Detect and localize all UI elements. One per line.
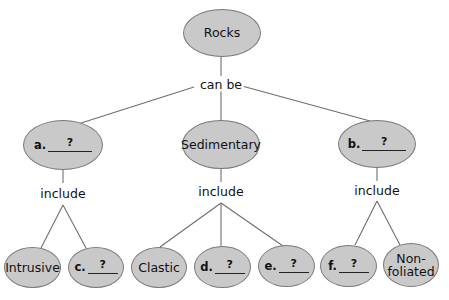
blank-b-answer-line: ? [362, 138, 406, 151]
blank-e-question-mark: ? [279, 258, 309, 270]
blank-f-letter: f. [328, 260, 337, 272]
node-clastic: Clastic [131, 247, 187, 288]
blank-f-answer-line: ? [339, 260, 369, 273]
blank-e-answer-line: ? [279, 260, 309, 273]
node-non-foliated: Non- foliated [383, 243, 439, 287]
link-include-b: include [352, 183, 401, 198]
node-blank-c: c. ? [68, 247, 124, 288]
link-include-sedimentary: include [196, 184, 245, 199]
node-blank-e: e. ? [258, 245, 315, 287]
link-can-be: can be [198, 77, 244, 92]
node-rocks: Rocks [183, 9, 261, 57]
node-blank-b: b. ? [338, 120, 416, 168]
node-sedimentary: Sedimentary [182, 120, 260, 169]
blank-d-answer-line: ? [215, 261, 245, 274]
node-clastic-label: Clastic [138, 261, 180, 274]
node-non-foliated-label: Non- foliated [387, 252, 434, 278]
node-blank-a: a. ? [23, 120, 103, 170]
concept-map: Rocks can be a. ? Sedimentary b. ? inclu… [0, 0, 449, 300]
blank-d-letter: d. [200, 261, 213, 273]
node-rocks-label: Rocks [204, 26, 240, 39]
link-include-a: include [38, 186, 87, 201]
blank-a-answer-line: ? [48, 139, 92, 152]
blank-e-letter: e. [264, 260, 276, 272]
node-intrusive: Intrusive [4, 247, 61, 288]
blank-c-letter: c. [74, 261, 85, 273]
node-blank-f: f. ? [320, 245, 377, 287]
blank-c-answer-line: ? [88, 261, 118, 274]
blank-c-question-mark: ? [88, 259, 118, 271]
node-intrusive-label: Intrusive [5, 261, 60, 274]
blank-a-letter: a. [34, 139, 46, 151]
node-blank-d: d. ? [194, 246, 251, 288]
node-sedimentary-label: Sedimentary [181, 138, 261, 151]
blank-a-question-mark: ? [48, 137, 92, 149]
blank-f-question-mark: ? [339, 258, 369, 270]
blank-d-question-mark: ? [215, 259, 245, 271]
blank-b-letter: b. [348, 138, 361, 150]
blank-b-question-mark: ? [362, 136, 406, 148]
